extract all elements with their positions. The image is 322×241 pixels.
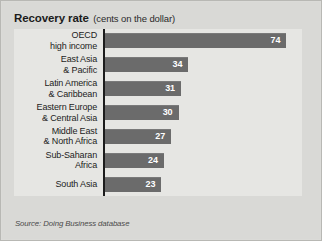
chart-title: Recovery rate (cents on the dollar) xyxy=(14,9,175,25)
category-label: OECD high income xyxy=(50,30,97,51)
category-label: Middle East & North Africa xyxy=(44,126,97,147)
category-label: Latin America & Caribbean xyxy=(44,78,97,99)
category-label: Eastern Europe & Central Asia xyxy=(37,102,97,123)
bar-value-label: 34 xyxy=(168,60,182,69)
bar-value-label: 24 xyxy=(144,156,158,165)
recovery-rate-chart-figure: Recovery rate (cents on the dollar) OECD… xyxy=(0,0,322,241)
bar-value-label: 23 xyxy=(141,180,155,189)
category-label: South Asia xyxy=(55,179,97,190)
source-work-title: Doing Business xyxy=(43,219,96,228)
bar xyxy=(105,33,286,48)
chart-title-main: Recovery rate xyxy=(14,12,89,24)
bar-value-label: 27 xyxy=(151,132,165,141)
category-label: East Asia & Pacific xyxy=(61,54,97,75)
source-suffix: database xyxy=(98,219,129,228)
bars-area: 74343130272423 xyxy=(105,29,302,196)
source-note: Source: Doing Business database xyxy=(15,219,129,228)
chart-title-subtitle: (cents on the dollar) xyxy=(93,13,175,24)
plot-panel: OECD high incomeEast Asia & PacificLatin… xyxy=(14,29,302,196)
bar-value-label: 30 xyxy=(159,108,173,117)
bar-value-label: 74 xyxy=(266,36,280,45)
bar-value-label: 31 xyxy=(161,84,175,93)
category-label: Sub-Saharan Africa xyxy=(46,150,97,171)
source-prefix: Source: xyxy=(15,219,41,228)
category-axis-labels: OECD high incomeEast Asia & PacificLatin… xyxy=(14,29,102,196)
